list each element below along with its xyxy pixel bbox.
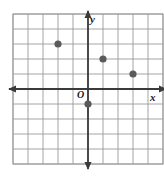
data-point: [99, 55, 106, 62]
coordinate-plane-figure: y x O: [0, 0, 164, 176]
y-axis-label: y: [90, 14, 95, 25]
x-axis-label: x: [150, 92, 156, 103]
data-point: [129, 70, 136, 77]
origin-label: O: [77, 90, 84, 100]
data-point: [84, 100, 91, 107]
axis-lines: [9, 11, 164, 169]
data-point: [54, 40, 61, 47]
grid-and-axes: [0, 0, 164, 176]
